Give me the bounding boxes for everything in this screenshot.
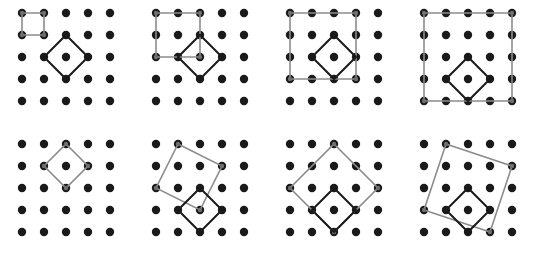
shape-vertex-marker	[154, 11, 158, 15]
lattice-dot	[218, 140, 226, 148]
lattice-dot	[374, 206, 382, 214]
lattice-dot	[40, 97, 48, 105]
lattice-square-figure	[0, 0, 534, 263]
lattice-dot	[442, 31, 450, 39]
lattice-dot	[508, 184, 516, 192]
lattice-dot	[464, 162, 472, 170]
shape-vertex-marker	[154, 186, 158, 190]
lattice-dot	[464, 31, 472, 39]
shape-vertex-marker	[42, 33, 46, 37]
lattice-dot	[18, 53, 26, 61]
lattice-dot	[308, 31, 316, 39]
shape-vertex-marker	[422, 208, 426, 212]
lattice-dot	[152, 162, 160, 170]
lattice-dot	[486, 140, 494, 148]
lattice-dot	[240, 140, 248, 148]
lattice-dot	[106, 140, 114, 148]
lattice-panel-4	[402, 0, 534, 131]
shape-vertex-marker	[176, 142, 180, 146]
lattice-dot	[106, 9, 114, 17]
lattice-dot	[40, 228, 48, 236]
lattice-dot	[62, 9, 70, 17]
dot-lattice	[18, 9, 114, 105]
lattice-dot	[486, 184, 494, 192]
lattice-dot	[218, 9, 226, 17]
lattice-dot	[40, 184, 48, 192]
lattice-dot	[84, 140, 92, 148]
shape-vertex-marker	[64, 186, 68, 190]
lattice-dot	[106, 75, 114, 83]
lattice-dot	[420, 184, 428, 192]
lattice-dot	[106, 53, 114, 61]
lattice-dot	[84, 228, 92, 236]
lattice-dot	[106, 162, 114, 170]
lattice-dot	[374, 140, 382, 148]
lattice-dot	[240, 75, 248, 83]
lattice-dot	[18, 228, 26, 236]
lattice-dot	[374, 53, 382, 61]
lattice-panel-6	[134, 131, 268, 262]
lattice-dot	[196, 140, 204, 148]
lattice-dot	[240, 97, 248, 105]
lattice-dot	[174, 97, 182, 105]
lattice-dot	[308, 97, 316, 105]
lattice-dot	[218, 75, 226, 83]
lattice-dot	[62, 97, 70, 105]
lattice-dot	[240, 206, 248, 214]
shape-vertex-marker	[64, 142, 68, 146]
lattice-dot	[240, 184, 248, 192]
lattice-dot	[240, 9, 248, 17]
lattice-dot	[152, 206, 160, 214]
lattice-dot	[18, 184, 26, 192]
lattice-dot	[18, 206, 26, 214]
lattice-dot	[18, 140, 26, 148]
shape-vertex-marker	[198, 208, 202, 212]
lattice-dot	[286, 206, 294, 214]
lattice-dot	[330, 206, 338, 214]
lattice-dot	[486, 162, 494, 170]
lattice-panel-8	[402, 131, 534, 262]
lattice-dot	[174, 184, 182, 192]
lattice-dot	[40, 75, 48, 83]
lattice-dot	[62, 228, 70, 236]
lattice-dot	[106, 228, 114, 236]
lattice-dot	[196, 162, 204, 170]
lattice-dot	[464, 206, 472, 214]
dot-lattice	[286, 9, 382, 105]
lattice-panel-3	[268, 0, 402, 131]
lattice-dot	[374, 31, 382, 39]
shape-vertex-marker	[288, 11, 292, 15]
shape-vertex-marker	[376, 186, 380, 190]
shape-vertex-marker	[332, 142, 336, 146]
lattice-dot	[240, 31, 248, 39]
lattice-dot	[464, 140, 472, 148]
lattice-dot	[106, 97, 114, 105]
lattice-dot	[308, 140, 316, 148]
lattice-dot	[420, 140, 428, 148]
lattice-dot	[374, 162, 382, 170]
lattice-dot	[374, 228, 382, 236]
lattice-dot	[18, 162, 26, 170]
lattice-dot	[420, 228, 428, 236]
lattice-dot	[508, 140, 516, 148]
lattice-dot	[152, 228, 160, 236]
lattice-dot	[106, 184, 114, 192]
shape-vertex-marker	[354, 77, 358, 81]
lattice-dot	[84, 9, 92, 17]
lattice-dot	[486, 31, 494, 39]
lattice-dot	[508, 228, 516, 236]
lattice-panel-1	[0, 0, 134, 131]
lattice-dot	[62, 53, 70, 61]
lattice-dot	[464, 75, 472, 83]
lattice-dot	[152, 75, 160, 83]
lattice-dot	[62, 162, 70, 170]
lattice-dot	[352, 184, 360, 192]
shape-vertex-marker	[488, 230, 492, 234]
shape-vertex-marker	[354, 11, 358, 15]
lattice-dot	[174, 75, 182, 83]
shape-vertex-marker	[220, 164, 224, 168]
lattice-dot	[218, 31, 226, 39]
lattice-dot	[106, 206, 114, 214]
lattice-dot	[152, 140, 160, 148]
shape-vertex-marker	[288, 77, 292, 81]
